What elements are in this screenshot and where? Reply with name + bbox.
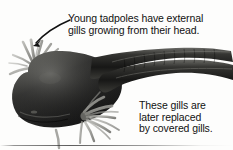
caption-bottom-line-3: by covered gills.: [139, 123, 213, 135]
bottom-divider: [0, 145, 233, 146]
figure-panel: Young tadpoles have external gills growi…: [0, 0, 233, 150]
caption-top-line-1: Young tadpoles have external: [68, 13, 203, 25]
caption-bottom-line-1: These gills are: [139, 100, 213, 112]
caption-top: Young tadpoles have external gills growi…: [68, 13, 203, 36]
caption-top-line-2: gills growing from their head.: [68, 25, 203, 37]
caption-bottom: These gills are later replaced by covere…: [139, 100, 213, 135]
